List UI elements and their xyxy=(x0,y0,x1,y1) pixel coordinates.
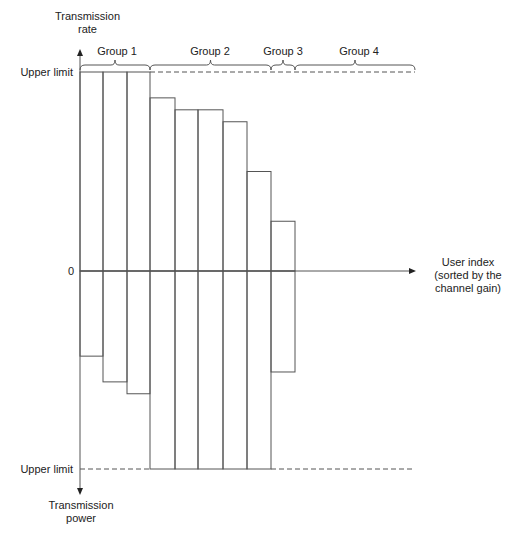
upper-limit-power-label: Upper limit xyxy=(8,463,73,476)
group-2-brace xyxy=(150,60,271,70)
group-3-brace xyxy=(271,60,295,70)
x-label-line1: User index xyxy=(425,256,511,269)
rate-bar-8 xyxy=(247,172,271,272)
x-label-line3: channel gain) xyxy=(425,282,511,295)
group-1-label: Group 1 xyxy=(92,45,142,58)
y-up-line1: Transmission xyxy=(40,10,135,23)
power-bar-1 xyxy=(80,271,103,356)
rate-bar-7 xyxy=(223,122,247,271)
group-3-label: Group 3 xyxy=(258,45,308,58)
power-bar-3 xyxy=(127,271,150,394)
group-4-label: Group 4 xyxy=(334,45,384,58)
y-down-line2: power xyxy=(40,512,122,525)
rate-bar-2 xyxy=(103,72,127,271)
rate-bar-6 xyxy=(198,110,223,271)
rate-bar-1 xyxy=(80,72,103,271)
rate-bar-3 xyxy=(127,72,150,271)
power-bar-7 xyxy=(223,271,247,469)
x-arrow-icon xyxy=(409,268,416,274)
power-bar-4 xyxy=(150,271,175,469)
zero-label: 0 xyxy=(62,265,74,278)
upper-limit-rate-label: Upper limit xyxy=(8,66,73,79)
x-axis-label: User index (sorted by the channel gain) xyxy=(425,256,511,295)
y-down-line1: Transmission xyxy=(40,499,122,512)
rate-bar-9 xyxy=(271,221,295,271)
group-4-brace xyxy=(295,60,415,70)
power-bar-5 xyxy=(175,271,198,469)
y-axis-up-label: Transmission rate xyxy=(40,10,135,36)
rate-bar-5 xyxy=(175,110,198,271)
power-bar-6 xyxy=(198,271,223,469)
rate-bar-4 xyxy=(150,98,175,271)
power-bar-9 xyxy=(271,271,295,372)
power-bar-8 xyxy=(247,271,271,469)
power-bar-2 xyxy=(103,271,127,382)
y-axis-down-label: Transmission power xyxy=(40,499,122,525)
y-up-line2: rate xyxy=(40,23,135,36)
group-2-label: Group 2 xyxy=(185,45,235,58)
y-down-arrow-icon xyxy=(77,488,83,495)
group-1-brace xyxy=(80,60,150,70)
y-up-arrow-icon xyxy=(77,49,83,56)
x-label-line2: (sorted by the xyxy=(425,269,511,282)
